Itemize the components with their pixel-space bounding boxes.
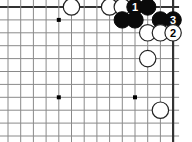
black-stone[interactable] <box>127 12 143 28</box>
star-point <box>57 18 61 22</box>
star-point <box>57 95 61 99</box>
white-stone[interactable] <box>152 102 168 118</box>
go-board[interactable] <box>0 0 192 142</box>
goban-grid <box>0 0 192 142</box>
black-stone[interactable] <box>140 0 156 15</box>
white-stone[interactable] <box>140 50 156 66</box>
white-stone[interactable] <box>63 0 79 15</box>
go-diagram-screenshot: 132 <box>0 0 192 142</box>
white-stone[interactable] <box>165 25 181 41</box>
star-point <box>133 95 137 99</box>
